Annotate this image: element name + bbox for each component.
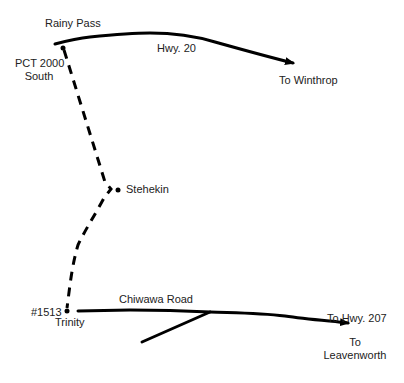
label-hwy20: Hwy. 20	[157, 42, 196, 55]
label-stehekin: Stehekin	[126, 183, 169, 196]
label-to-hwy207: To Hwy. 207	[327, 312, 387, 325]
rainy-pass-point-icon	[61, 46, 66, 51]
pct-trail	[64, 50, 111, 308]
label-to-leavenworth: To Leavenworth	[320, 336, 390, 362]
label-pct-line2: South	[15, 70, 63, 83]
label-to-winthrop: To Winthrop	[279, 74, 338, 87]
label-to-leavenworth-line2: Leavenworth	[320, 349, 390, 362]
chiwawa-road	[78, 310, 348, 323]
branch-road	[142, 312, 210, 342]
label-pct-line1: PCT 2000	[15, 57, 63, 70]
label-to-leavenworth-line1: To	[320, 336, 390, 349]
trinity-point-icon	[65, 309, 70, 314]
label-trinity: Trinity	[55, 316, 85, 329]
label-rainy-pass: Rainy Pass	[45, 17, 101, 30]
label-chiwawa-road: Chiwawa Road	[119, 293, 193, 306]
stehekin-point-icon	[116, 188, 121, 193]
label-pct: PCT 2000 South	[15, 57, 63, 83]
